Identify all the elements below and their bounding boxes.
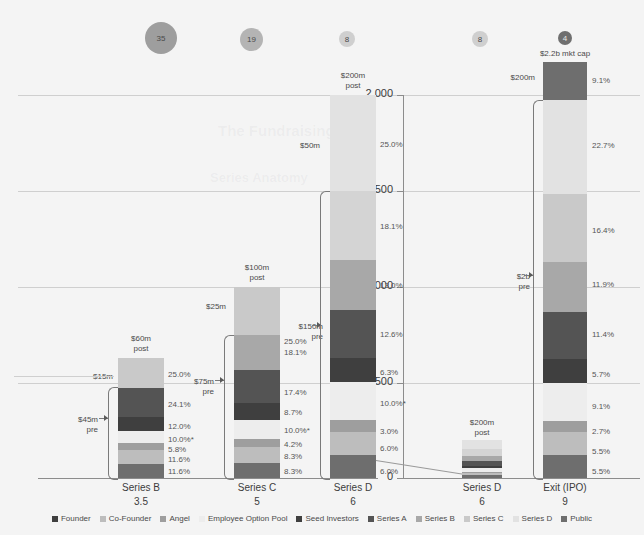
pct-series-b-2: 12.0%	[168, 422, 191, 432]
arrow-series-d-pre	[317, 322, 321, 328]
category-value-series-b: 3.5	[108, 496, 174, 507]
pct-exit-9: 5.5%	[592, 467, 610, 477]
legend-item-series-d[interactable]: Series D	[513, 514, 553, 523]
pct-series-c-3: 8.7%	[284, 408, 302, 418]
legend-item-series-b[interactable]: Series B	[416, 514, 455, 523]
bubble-exit-ipo: 4	[558, 31, 572, 45]
legend-item-public[interactable]: Public	[561, 514, 592, 523]
brace-series-c	[224, 335, 234, 480]
pct-series-d-4: 6.3%	[380, 368, 398, 378]
segment-series-d-seriesd	[330, 95, 376, 191]
bubble-series-c: 19	[240, 28, 263, 51]
bar-series-b[interactable]	[118, 358, 164, 478]
pct-series-d-2: 13.0%	[380, 281, 403, 291]
leader-series-b-round	[14, 376, 114, 377]
legend-swatch-founder	[52, 516, 58, 522]
bar-label-exit-round: $200m	[487, 73, 535, 83]
bar-label-series-d-right-top: $200m post	[452, 418, 512, 438]
legend-label-series-d: Series D	[522, 514, 553, 523]
pct-exit-4: 11.4%	[592, 330, 614, 340]
legend-label-angel: Angel	[169, 514, 189, 523]
bubble-series-b: 35	[145, 22, 177, 54]
legend-item-co-founder[interactable]: Co-Founder	[100, 514, 152, 523]
pct-series-c-1: 18.1%	[284, 348, 307, 358]
bar-label-series-d-pre-amount: $150m	[268, 322, 323, 332]
segment-exit-founder	[543, 455, 587, 478]
category-value-series-d-right: 6	[449, 496, 515, 507]
bar-label-series-c-top: $100m post	[224, 263, 290, 283]
pct-series-c-6: 8.3%	[284, 452, 302, 462]
legend-item-seed-investors[interactable]: Seed Investors	[296, 514, 358, 523]
pct-exit-0: 9.1%	[592, 76, 610, 86]
bar-label-series-d-pre-word: pre	[268, 332, 323, 342]
bar-label-series-c-round: $25m	[178, 302, 226, 312]
segment-exit-seriesc	[543, 194, 587, 262]
legend-item-series-c[interactable]: Series C	[464, 514, 504, 523]
legend-item-founder[interactable]: Founder	[52, 514, 91, 523]
pct-series-c-7: 8.3%	[284, 467, 302, 477]
pct-series-d-8: 6.0%	[380, 467, 398, 477]
legend-label-seed-investors: Seed Investors	[305, 514, 358, 523]
bar-label-exit-pre-amount: $2b	[492, 272, 530, 282]
legend-item-angel[interactable]: Angel	[160, 514, 189, 523]
baseline-right-panel	[404, 478, 640, 479]
y-tick-2000	[397, 95, 403, 96]
bar-label-series-d-post: post	[320, 81, 386, 91]
pct-series-b-4: 5.8%	[168, 445, 186, 455]
legend-item-series-a[interactable]: Series A	[368, 514, 407, 523]
segment-exit-cofounder	[543, 432, 587, 455]
legend-label-series-b: Series B	[425, 514, 455, 523]
segment-exit-seed	[543, 359, 587, 383]
pct-exit-5: 5.7%	[592, 370, 610, 380]
category-label-series-d: Series D	[320, 482, 386, 493]
bar-label-series-d-amount: $200m	[320, 71, 386, 81]
pct-exit-8: 5.5%	[592, 447, 610, 457]
segment-series-c-founder	[234, 463, 280, 478]
pct-exit-2: 16.4%	[592, 226, 615, 236]
pct-series-c-4: 10.0%*	[284, 426, 310, 436]
legend-item-employee-option-pool[interactable]: Employee Option Pool	[199, 514, 288, 523]
pct-series-d-1: 18.1%	[380, 222, 403, 232]
pct-exit-6: 9.1%	[592, 402, 610, 412]
segment-exit-seriesb	[543, 262, 587, 312]
segment-exit-seriesa	[543, 312, 587, 359]
pct-series-d-3: 12.6%	[380, 330, 403, 340]
bar-series-d-right[interactable]	[462, 440, 502, 478]
gridline-right-2000	[404, 95, 640, 96]
pct-series-b-6: 11.6%	[168, 467, 190, 477]
watermark-text: The Fundraising	[218, 122, 335, 139]
brace-exit	[533, 100, 543, 480]
segment-series-b-cofounder	[118, 450, 164, 464]
legend-swatch-co-founder	[100, 516, 106, 522]
bar-label-series-d-right-amount: $200m	[452, 418, 512, 428]
legend-swatch-employee-option-pool	[199, 516, 205, 522]
segment-series-d-angel	[330, 420, 376, 432]
segment-series-b-esop	[118, 431, 164, 443]
bar-exit-ipo[interactable]	[543, 62, 587, 478]
legend-label-founder: Founder	[61, 514, 91, 523]
bubble-label-series-b: 35	[157, 34, 166, 43]
segment-series-c-seriesa	[234, 370, 280, 403]
legend-swatch-series-b	[416, 516, 422, 522]
segment-series-d-seriesb	[330, 260, 376, 310]
segment-series-d-seriesc	[330, 191, 376, 260]
bar-label-series-b-top: $60m post	[108, 334, 174, 354]
watermark-text-2: Series Anatomy	[210, 170, 308, 185]
segment-series-c-seed	[234, 403, 280, 420]
bar-label-series-d-top: $200m post	[320, 71, 386, 91]
category-label-exit-ipo: Exit (IPO)	[532, 482, 598, 493]
legend-swatch-series-a	[368, 516, 374, 522]
segment-series-d-founder	[330, 455, 376, 478]
segment-series-d-right-seriesc	[462, 449, 502, 456]
bar-series-d[interactable]	[330, 95, 376, 478]
legend-label-series-a: Series A	[377, 514, 407, 523]
segment-series-c-cofounder	[234, 447, 280, 463]
bubble-series-d: 8	[339, 31, 355, 47]
legend-label-employee-option-pool: Employee Option Pool	[208, 514, 288, 523]
bar-series-c[interactable]	[234, 287, 280, 478]
bar-label-series-d-right-post: post	[452, 428, 512, 438]
legend-swatch-angel	[160, 516, 166, 522]
arrow-exit-pre	[529, 272, 533, 278]
segment-series-d-cofounder	[330, 432, 376, 455]
legend-label-series-c: Series C	[473, 514, 504, 523]
